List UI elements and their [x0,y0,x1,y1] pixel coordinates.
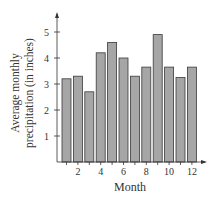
bar-month-1 [62,79,71,162]
bar-month-7 [130,76,139,162]
bar-month-9 [153,35,162,162]
x-axis-arrow-icon [201,160,207,164]
x-tick-label: 12 [187,166,197,177]
x-tick-label: 2 [75,166,80,177]
y-axis-label: Average monthly precipitation (in inches… [0,20,44,165]
bar-month-11 [176,78,185,163]
bar-month-3 [85,92,94,162]
bar-month-10 [165,67,174,162]
y-tick-label: 4 [44,53,49,64]
bar-month-12 [187,67,196,162]
y-axis-label-line-2: precipitation (in inches) [22,38,36,148]
x-axis-label: Month [60,180,200,195]
bar-month-4 [96,53,105,162]
y-axis-label-line-1: Average monthly [8,38,22,148]
y-tick-label: 3 [44,79,49,90]
y-tick-label: 1 [44,131,49,142]
bar-month-5 [108,42,117,162]
bar-month-8 [142,67,151,162]
y-tick-label: 5 [44,27,49,38]
bar-month-2 [73,76,82,162]
bar-month-6 [119,58,128,162]
x-tick-label: 10 [164,166,174,177]
x-tick-label: 8 [144,166,149,177]
y-axis-arrow-icon [55,12,59,18]
x-tick-label: 6 [121,166,126,177]
precipitation-bar-chart: 1234524681012 Average monthly precipitat… [0,0,213,202]
x-tick-label: 4 [98,166,103,177]
y-tick-label: 2 [44,105,49,116]
